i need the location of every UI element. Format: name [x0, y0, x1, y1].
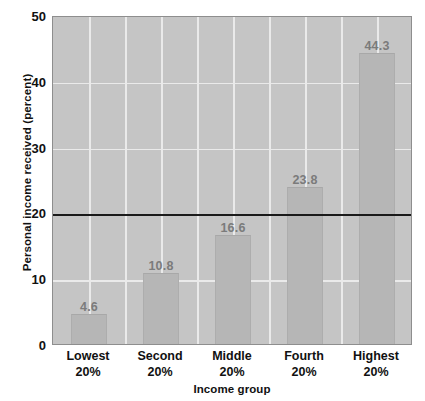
y-axis-tick-50: 50 — [20, 10, 46, 23]
y-axis-tick-30: 30 — [20, 141, 46, 154]
horizontal-gridline-30 — [53, 149, 411, 151]
vertical-gridline — [269, 17, 271, 344]
x-axis-tick-3: Middle20% — [212, 349, 252, 380]
y-axis-tick-labels: 01020304050 — [20, 16, 46, 345]
x-axis-tick-1: Lowest20% — [66, 349, 109, 380]
bar-value-label: 23.8 — [292, 174, 317, 187]
bar — [143, 273, 179, 344]
x-axis-tick-4: Fourth20% — [284, 349, 324, 380]
x-axis-tick-2: Second20% — [137, 349, 182, 380]
plot-inner: 4.610.816.623.844.3 — [53, 17, 411, 344]
x-axis-tick-5: Highest20% — [353, 349, 399, 380]
y-axis-tick-20: 20 — [20, 207, 46, 220]
bar-value-label: 10.8 — [148, 259, 173, 272]
x-tick-line-1: Lowest — [66, 349, 109, 363]
y-axis-tick-40: 40 — [20, 75, 46, 88]
bar-chart-figure: Personal income received (percent) 01020… — [0, 0, 425, 401]
x-tick-line-2: 20% — [212, 365, 252, 381]
x-tick-line-1: Fourth — [284, 349, 324, 363]
x-tick-line-2: 20% — [137, 365, 182, 381]
reference-line-20-percent — [53, 214, 411, 216]
horizontal-gridline-40 — [53, 83, 411, 85]
bar-value-label: 4.6 — [80, 300, 98, 313]
bar-value-label: 16.6 — [220, 221, 245, 234]
y-axis-tick-10: 10 — [20, 273, 46, 286]
plot-area: 4.610.816.623.844.3 — [52, 16, 412, 345]
bar — [71, 314, 107, 344]
vertical-gridline — [197, 17, 199, 344]
x-tick-line-1: Middle — [212, 349, 252, 363]
bar-value-label: 44.3 — [364, 39, 389, 52]
vertical-gridline — [125, 17, 127, 344]
vertical-gridline — [89, 17, 91, 344]
bar — [215, 235, 251, 344]
x-tick-line-1: Second — [137, 349, 182, 363]
vertical-gridline — [341, 17, 343, 344]
bar — [359, 53, 395, 344]
y-axis-tick-0: 0 — [20, 339, 46, 352]
x-axis-title: Income group — [52, 383, 412, 395]
x-tick-line-2: 20% — [66, 365, 109, 381]
bar — [287, 187, 323, 344]
x-tick-line-2: 20% — [284, 365, 324, 381]
x-axis-tick-labels: Lowest20%Second20%Middle20%Fourth20%High… — [52, 349, 412, 385]
x-tick-line-2: 20% — [353, 365, 399, 381]
x-tick-line-1: Highest — [353, 349, 399, 363]
